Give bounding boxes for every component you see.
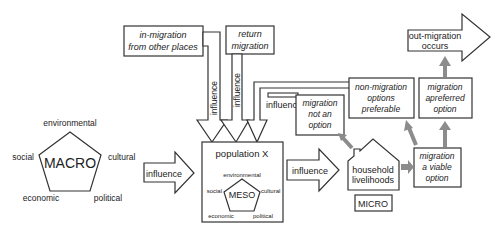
population-x-label: population X bbox=[216, 148, 269, 159]
macro-factor-cultural: cultural bbox=[108, 152, 136, 162]
macro-factor-political: political bbox=[94, 193, 122, 203]
svg-text:non-migration: non-migration bbox=[355, 82, 407, 92]
meso-to-micro-label: influence bbox=[292, 166, 328, 176]
arrow-house-to-viable bbox=[401, 160, 414, 174]
return-migration-influence-label: influence bbox=[232, 73, 242, 107]
svg-text:migration: migration bbox=[303, 98, 338, 108]
svg-text:in-migration: in-migration bbox=[139, 30, 186, 40]
micro-label-box: MICRO bbox=[355, 195, 392, 211]
out-migration-arrow: out-migration occurs bbox=[408, 14, 490, 61]
meso-factor-social: social bbox=[207, 188, 222, 194]
return-migration-influence-arrow: influence bbox=[221, 54, 249, 142]
macro-to-meso-label: influence bbox=[146, 169, 182, 179]
in-migration-influence-label: influence bbox=[209, 81, 219, 115]
svg-text:migration: migration bbox=[428, 82, 463, 92]
arrow-viable-to-non-migration bbox=[404, 120, 416, 145]
non-migration-preferable-box: non-migration options preferable bbox=[349, 78, 414, 118]
svg-text:household: household bbox=[352, 165, 394, 175]
svg-text:out-migration: out-migration bbox=[409, 31, 462, 41]
svg-text:a viable: a viable bbox=[422, 162, 452, 172]
svg-text:MICRO: MICRO bbox=[358, 199, 388, 209]
return-migration-box: return migration bbox=[226, 26, 274, 54]
arrow-viable-to-preferred bbox=[439, 121, 451, 147]
svg-text:livelihoods: livelihoods bbox=[352, 175, 395, 185]
svg-text:option: option bbox=[433, 104, 456, 114]
migration-preferred-box: migration apreferred option bbox=[419, 78, 472, 118]
arrow-preferred-to-out-migration bbox=[439, 56, 451, 77]
macro-group: MACRO environmental social cultural econ… bbox=[12, 118, 135, 203]
migration-diagram: MACRO environmental social cultural econ… bbox=[0, 0, 501, 231]
meso-factor-economic: economic bbox=[208, 213, 234, 219]
macro-label: MACRO bbox=[44, 155, 96, 171]
in-migration-box: in-migration from other places bbox=[124, 26, 203, 56]
svg-text:options: options bbox=[367, 93, 395, 103]
svg-text:option: option bbox=[425, 173, 448, 183]
meso-to-micro-arrow: influence bbox=[287, 149, 339, 191]
macro-factor-social: social bbox=[12, 152, 34, 162]
svg-text:return: return bbox=[238, 29, 262, 39]
svg-text:occurs: occurs bbox=[422, 41, 449, 51]
meso-label: MESO bbox=[229, 190, 256, 200]
migration-not-option-box: migration not an option bbox=[296, 95, 344, 135]
meso-factor-political: political bbox=[253, 213, 273, 219]
arrow-house-to-not-option bbox=[338, 133, 352, 148]
svg-text:migration: migration bbox=[231, 41, 268, 51]
svg-text:option: option bbox=[308, 120, 331, 130]
meso-factor-environmental: environmental bbox=[223, 172, 261, 178]
meso-factor-cultural: cultural bbox=[261, 188, 280, 194]
macro-factor-environmental: environmental bbox=[43, 118, 97, 128]
macro-to-meso-arrow: influence bbox=[144, 152, 194, 193]
svg-text:apreferred: apreferred bbox=[425, 93, 464, 103]
svg-text:from other places: from other places bbox=[128, 42, 198, 52]
svg-text:migration: migration bbox=[420, 151, 455, 161]
macro-factor-economic: economic bbox=[23, 193, 60, 203]
svg-text:not an: not an bbox=[308, 109, 332, 119]
household-livelihoods-house: household livelihoods bbox=[348, 139, 399, 190]
svg-text:preferable: preferable bbox=[361, 104, 401, 114]
population-x-box: population X MESO environmental social c… bbox=[202, 142, 283, 222]
migration-viable-box: migration a viable option bbox=[414, 148, 461, 187]
